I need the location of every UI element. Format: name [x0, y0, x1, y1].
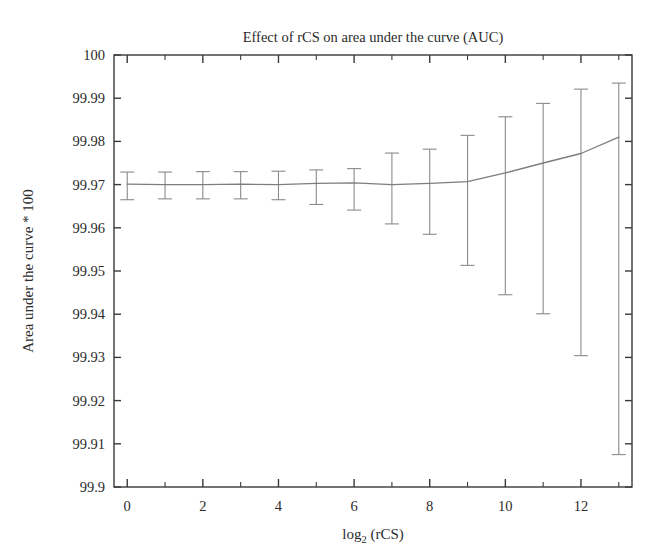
x-tick-label: 12 [574, 498, 589, 514]
y-tick-label: 99.91 [72, 436, 105, 452]
y-tick-label: 99.96 [72, 220, 105, 236]
x-tick-label: 8 [426, 498, 433, 514]
y-tick-label: 99.94 [72, 306, 105, 322]
chart-title: Effect of rCS on area under the curve (A… [243, 29, 504, 46]
chart-background [0, 0, 665, 559]
x-tick-label: 6 [350, 498, 357, 514]
y-tick-label: 99.97 [72, 177, 105, 193]
y-tick-label: 99.99 [72, 90, 105, 106]
x-tick-label: 0 [124, 498, 131, 514]
y-tick-label: 99.92 [72, 393, 105, 409]
y-tick-label: 99.9 [80, 479, 105, 495]
x-axis-title-tail: (rCS) [367, 526, 404, 543]
y-tick-label: 99.93 [72, 349, 105, 365]
y-axis-title: Area under the curve * 100 [20, 189, 36, 353]
y-tick-label: 99.98 [72, 133, 105, 149]
auc-errorbar-chart: 99.999.9199.9299.9399.9499.9599.9699.979… [0, 0, 665, 559]
x-tick-label: 10 [498, 498, 513, 514]
x-axis-title-main: log [342, 526, 362, 542]
y-tick-label: 100 [83, 47, 105, 63]
x-tick-label: 4 [275, 498, 283, 514]
x-tick-label: 2 [199, 498, 206, 514]
y-tick-label: 99.95 [72, 263, 105, 279]
chart-figure: 99.999.9199.9299.9399.9499.9599.9699.979… [0, 0, 665, 559]
